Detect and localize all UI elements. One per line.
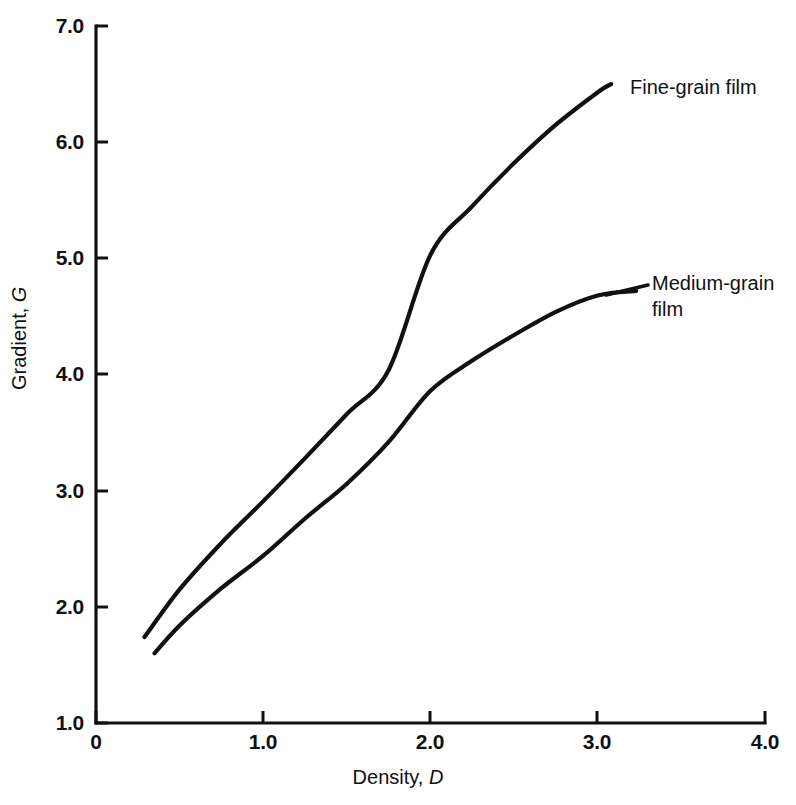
y-tick-label-6: 6.0 bbox=[6, 130, 84, 154]
y-tick-label-2: 2.0 bbox=[6, 595, 84, 619]
figure-graph-gradient-vs-density: 7.0 6.0 5.0 4.0 3.0 2.0 1.0 0 1.0 2.0 3.… bbox=[0, 0, 796, 805]
x-tick-label-3: 3.0 bbox=[567, 730, 627, 754]
y-tick-label-1: 1.0 bbox=[6, 711, 84, 735]
curve-medium-grain-film bbox=[155, 291, 637, 653]
x-axis-title-symbol: D bbox=[429, 766, 443, 788]
y-axis-title-symbol: G bbox=[8, 287, 30, 303]
series-label-medium-grain-film: Medium-grain film bbox=[652, 270, 774, 322]
series-label-medium-grain-line1: Medium-grain bbox=[652, 270, 774, 296]
x-axis-title: Density, D bbox=[0, 766, 796, 789]
y-axis-title-text: Gradient, bbox=[8, 308, 30, 390]
y-tick-label-3: 3.0 bbox=[6, 479, 84, 503]
x-axis-ticks bbox=[96, 711, 765, 723]
x-tick-label-1: 1.0 bbox=[233, 730, 293, 754]
series-label-fine-grain-film: Fine-grain film bbox=[630, 74, 757, 100]
y-tick-label-5: 5.0 bbox=[6, 246, 84, 270]
y-tick-label-7: 7.0 bbox=[6, 14, 84, 38]
plot-canvas bbox=[0, 0, 796, 805]
x-axis-title-text: Density, bbox=[353, 766, 424, 788]
series-label-medium-grain-line2: film bbox=[652, 296, 774, 322]
x-tick-label-4: 4.0 bbox=[735, 730, 795, 754]
x-tick-label-0: 0 bbox=[76, 730, 116, 754]
curve-fine-grain-film bbox=[145, 84, 612, 637]
x-tick-label-2: 2.0 bbox=[400, 730, 460, 754]
y-axis-ticks bbox=[96, 26, 108, 723]
